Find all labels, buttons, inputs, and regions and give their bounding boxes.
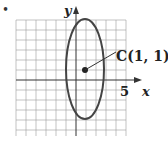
center-leader-line [85,52,116,70]
y-axis-arrow-icon [73,6,79,14]
x-tick-label-5: 5 [120,84,129,99]
x-axis-label: x [141,84,150,99]
ellipse-diagram: • C(1, 1) y x 5 [0,0,168,144]
x-axis-arrow-icon [134,77,142,83]
center-label: C(1, 1) [116,48,168,64]
bullet: • [2,3,9,17]
y-axis-label: y [63,3,73,18]
